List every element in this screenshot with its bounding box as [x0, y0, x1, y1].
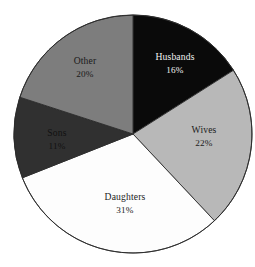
slice-value-wives: 22% [195, 138, 212, 148]
slice-label-husbands: Husbands [155, 51, 194, 62]
slice-value-other: 20% [76, 69, 93, 79]
slice-value-daughters: 31% [116, 205, 133, 215]
slice-label-sons: Sons [47, 127, 66, 138]
slice-label-daughters: Daughters [105, 191, 146, 202]
slice-label-wives: Wives [192, 124, 217, 135]
pie-chart: Husbands16%Wives22%Daughters31%Sons11%Ot… [0, 0, 255, 267]
slice-value-sons: 11% [49, 141, 66, 151]
slice-value-husbands: 16% [166, 65, 183, 75]
pie-chart-canvas: Husbands16%Wives22%Daughters31%Sons11%Ot… [0, 0, 255, 267]
slice-label-other: Other [74, 55, 97, 66]
